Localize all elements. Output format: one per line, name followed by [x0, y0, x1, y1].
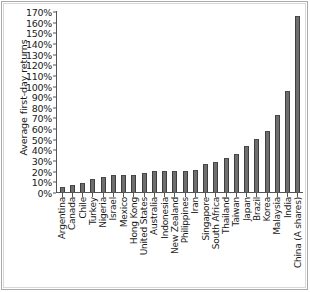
- x-axis-tick-label: Philippines: [180, 197, 190, 243]
- bar: [183, 171, 188, 192]
- x-axis-tick-label: South Africa: [211, 197, 221, 249]
- bar: [162, 171, 167, 192]
- bar-slot: [231, 11, 241, 192]
- bar: [121, 175, 126, 192]
- bar-slot: [211, 11, 221, 192]
- bar: [70, 185, 75, 192]
- bar: [80, 183, 85, 192]
- bar-slot: [139, 11, 149, 192]
- bar: [193, 170, 198, 192]
- x-label-slot: Nigeria: [98, 197, 108, 289]
- bar-slot: [170, 11, 180, 192]
- x-axis-tick-label: Mexico: [119, 197, 129, 227]
- bar: [275, 115, 280, 192]
- bar: [90, 179, 95, 192]
- x-label-slot: Singapore: [201, 197, 211, 289]
- x-label-slot: Japan: [242, 197, 252, 289]
- y-axis-tick-label: 170%: [26, 7, 56, 18]
- x-label-slot: United States: [139, 197, 149, 289]
- x-label-slot: Hong Kong: [129, 197, 139, 289]
- bar: [244, 146, 249, 192]
- bar: [60, 187, 65, 192]
- x-label-slot: New Zealand: [170, 197, 180, 289]
- x-label-slot: South Africa: [211, 197, 221, 289]
- y-axis-tick-mark: [53, 97, 56, 98]
- y-axis-tick-mark: [53, 12, 56, 13]
- bar-slot: [190, 11, 200, 192]
- bar: [254, 139, 259, 192]
- x-axis-tick-label: Korea: [262, 197, 272, 222]
- x-axis-tick-label: United States: [139, 197, 149, 255]
- bar: [131, 175, 136, 192]
- x-label-slot: Philippines: [180, 197, 190, 289]
- bar-slot: [129, 11, 139, 192]
- bar: [213, 162, 218, 192]
- bar-slot: [180, 11, 190, 192]
- x-axis-tick-label: Nigeria: [98, 197, 108, 228]
- bar-slot: [272, 11, 282, 192]
- x-label-slot: Iran: [190, 197, 200, 289]
- bar-slot: [98, 11, 108, 192]
- y-axis-tick-mark: [53, 182, 56, 183]
- plot-area: 170%160%150%140%130%120%110%100%90%80%70…: [56, 12, 303, 193]
- x-axis-tick-label: Canada: [67, 197, 77, 230]
- x-label-slot: Malaysia: [272, 197, 282, 289]
- x-label-slot: Turkey: [88, 197, 98, 289]
- bar: [172, 171, 177, 192]
- bar: [285, 91, 290, 192]
- x-label-slot: Brazil: [252, 197, 262, 289]
- x-axis-tick-label: Chile: [78, 197, 88, 219]
- x-axis-tick-label: Argentina: [57, 197, 67, 239]
- y-axis-tick-mark: [53, 75, 56, 76]
- x-axis-tick-label: Malaysia: [272, 197, 282, 235]
- bar-slot: [57, 11, 67, 192]
- y-axis-tick-mark: [53, 171, 56, 172]
- x-axis-tick-label: China (A shares): [293, 197, 303, 268]
- y-axis-tick-label: 140%: [26, 38, 56, 49]
- bar-slot: [119, 11, 129, 192]
- y-axis-tick-label: 110%: [26, 70, 56, 81]
- y-axis-tick-label: 130%: [26, 49, 56, 60]
- y-axis-tick-mark: [53, 129, 56, 130]
- bar: [295, 16, 300, 192]
- x-label-slot: Thailand: [221, 197, 231, 289]
- chart-figure: Average first-day returns 170%160%150%14…: [0, 0, 310, 292]
- y-axis-tick-label: 150%: [26, 28, 56, 39]
- bar-series: [57, 11, 303, 192]
- bar-slot: [201, 11, 211, 192]
- x-axis-tick-label: Hong Kong: [129, 197, 139, 244]
- bar-slot: [149, 11, 159, 192]
- x-axis-tick-label: Brazil: [252, 197, 262, 221]
- y-axis-tick-label: 100%: [26, 81, 56, 92]
- y-axis-tick-label: 120%: [26, 60, 56, 71]
- x-label-slot: Australia: [149, 197, 159, 289]
- bar-slot: [262, 11, 272, 192]
- bar-slot: [78, 11, 88, 192]
- bar-slot: [242, 11, 252, 192]
- y-axis-tick-mark: [53, 139, 56, 140]
- bar-slot: [293, 11, 303, 192]
- x-label-slot: India: [283, 197, 293, 289]
- x-axis-tick-label: Turkey: [88, 197, 98, 225]
- y-axis-tick-label: 160%: [26, 17, 56, 28]
- y-axis-tick-mark: [53, 65, 56, 66]
- bar: [101, 177, 106, 192]
- x-axis-tick-label: India: [283, 197, 293, 218]
- bar: [111, 175, 116, 192]
- x-axis-tick-label: Singapore: [201, 197, 211, 241]
- bar: [234, 154, 239, 192]
- y-axis-tick-mark: [53, 107, 56, 108]
- y-axis-tick-mark: [53, 150, 56, 151]
- x-axis-tick-label: Indonesia: [160, 197, 170, 239]
- bar-slot: [252, 11, 262, 192]
- x-axis-labels: ArgentinaCanadaChileTurkeyNigeriaIsraelM…: [57, 197, 303, 289]
- y-axis-tick-mark: [53, 54, 56, 55]
- bar-slot: [108, 11, 118, 192]
- y-axis-tick-mark: [53, 43, 56, 44]
- x-label-slot: Indonesia: [160, 197, 170, 289]
- x-axis-tick-label: Israel: [108, 197, 118, 220]
- y-axis-tick-mark: [53, 22, 56, 23]
- bar-slot: [88, 11, 98, 192]
- x-axis-tick-label: Japan: [242, 197, 252, 221]
- x-label-slot: Israel: [108, 197, 118, 289]
